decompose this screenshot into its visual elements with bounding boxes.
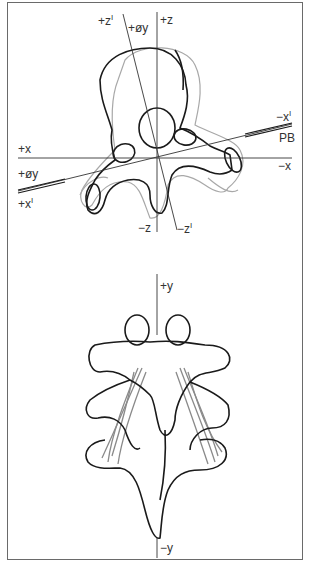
label-minus-x-prime: −xI — [276, 110, 291, 123]
label-minus-z-prime: −zI — [177, 222, 192, 235]
top-view-axes — [18, 12, 292, 232]
top-view-ghost-vertebra — [80, 48, 243, 218]
top-view-vertebra — [85, 48, 245, 214]
label-minus-x: −x — [278, 160, 291, 172]
label-plus-z: +z — [160, 14, 173, 26]
bottom-view-ligaments — [102, 368, 222, 464]
label-plus-z-prime: +zI — [98, 14, 113, 27]
label-minus-y: −y — [160, 542, 173, 554]
label-plus-x-prime: +xI — [18, 197, 33, 210]
label-plus-x: +x — [18, 143, 31, 155]
label-plus-y: +y — [160, 280, 173, 292]
label-plus-phi-y: +øy — [18, 168, 38, 180]
label-pb: PB — [279, 132, 295, 144]
vertebra-diagram — [0, 0, 310, 568]
left-articular-process — [125, 315, 149, 345]
label-minus-z: −z — [138, 222, 151, 234]
label-plus-phi-y-top: +øy — [128, 22, 148, 34]
